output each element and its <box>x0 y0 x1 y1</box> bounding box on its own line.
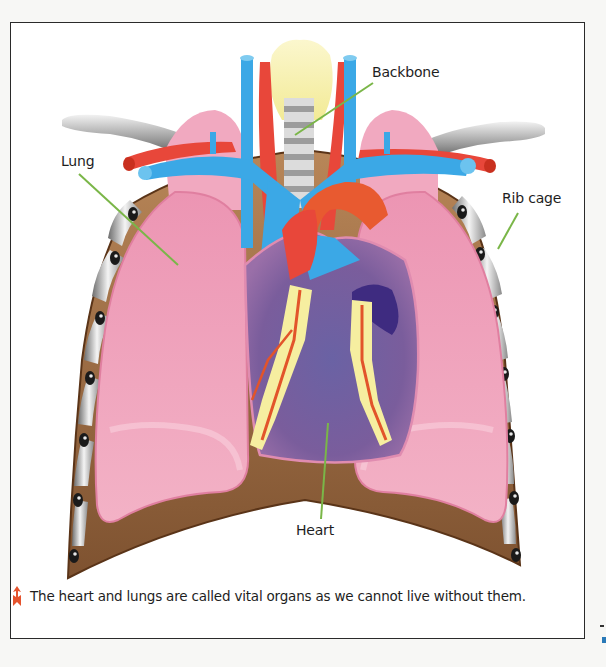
caption-text: The heart and lungs are called vital org… <box>30 588 526 604</box>
chest-illustration <box>0 0 606 667</box>
figure-caption: The heart and lungs are called vital org… <box>12 586 526 606</box>
label-heart: Heart <box>296 522 334 538</box>
label-rib-cage: Rib cage <box>502 190 561 206</box>
label-backbone: Backbone <box>372 64 439 80</box>
page-edge-tab <box>602 637 606 643</box>
page-edge-mark <box>600 625 604 627</box>
arrow-up-icon <box>12 586 22 606</box>
label-lung: Lung <box>61 153 94 169</box>
